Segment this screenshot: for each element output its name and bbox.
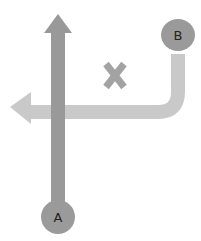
- node-a-label: A: [54, 210, 63, 225]
- path-a-line: [51, 30, 65, 202]
- diagram-svg: A B: [0, 0, 201, 241]
- path-b-arrow: [10, 54, 178, 124]
- path-b-arrowhead: [10, 92, 31, 124]
- path-a-arrowhead: [44, 14, 72, 33]
- node-b: B: [161, 19, 195, 51]
- node-b-label: B: [174, 28, 183, 43]
- diagram-canvas: A B: [0, 0, 201, 241]
- x-mark-icon: [106, 64, 124, 87]
- node-a: A: [41, 200, 75, 234]
